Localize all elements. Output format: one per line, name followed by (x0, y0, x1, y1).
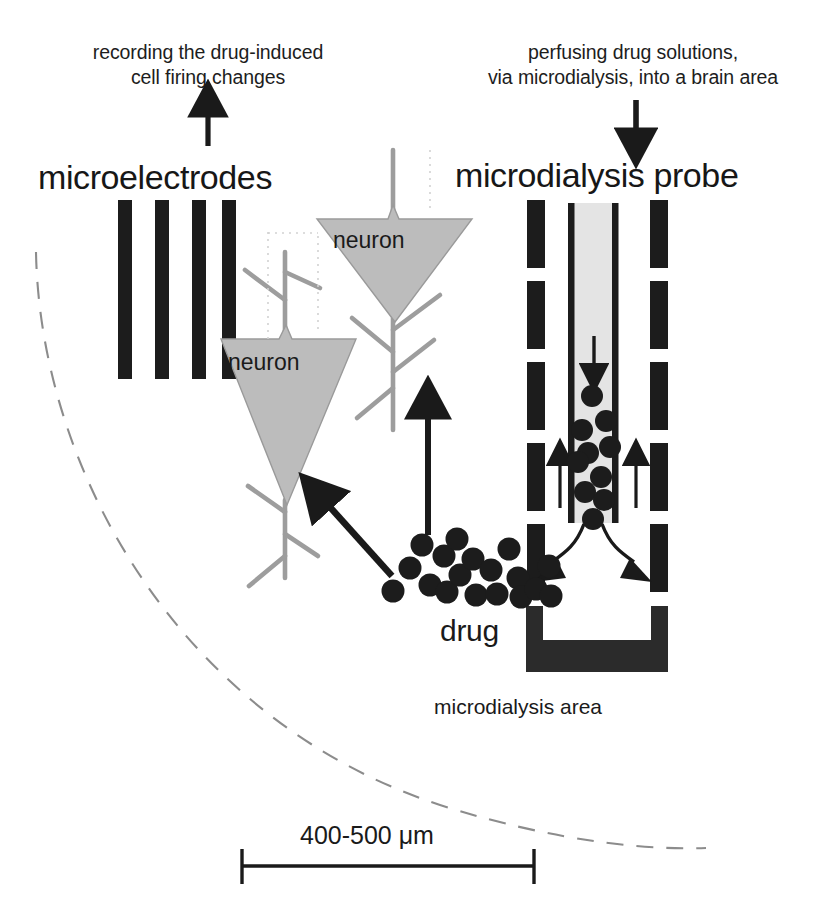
heading-microdialysis-probe: microdialysis probe (455, 156, 738, 194)
heading-microelectrodes: microelectrodes (38, 158, 272, 196)
microelectrode-bar (192, 200, 206, 379)
scale-bar (242, 849, 534, 884)
figure-canvas: recording the drug-induced cell firing c… (0, 0, 830, 911)
label-scale-bar: 400-500 μm (300, 821, 434, 850)
probe-wall-left (527, 200, 545, 592)
label-microdialysis-area: microdialysis area (434, 695, 602, 719)
caption-recording: recording the drug-induced cell firing c… (18, 40, 398, 90)
neuron-upper-soma (317, 205, 472, 322)
label-neuron-lower: neuron (228, 349, 300, 376)
microelectrode-bar (155, 200, 169, 379)
probe-tube-wall-right (612, 203, 619, 523)
diffusion-arrowhead-right-icon (620, 558, 652, 582)
probe-tube-wall-left (568, 203, 575, 523)
microelectrode-bar (118, 200, 132, 379)
diffusion-arrow-left-icon (552, 524, 584, 562)
diagram-svg (0, 0, 830, 911)
probe-base (526, 606, 668, 672)
diffusion-arrow-right-icon (602, 524, 634, 562)
microelectrode-array (118, 200, 236, 379)
drug-to-neuron-arrow-icon (320, 496, 392, 576)
label-drug: drug (440, 614, 499, 648)
label-neuron-upper: neuron (333, 227, 405, 254)
caption-perfusion: perfusing drug solutions, via microdialy… (448, 40, 818, 90)
probe-wall-right (650, 200, 668, 592)
